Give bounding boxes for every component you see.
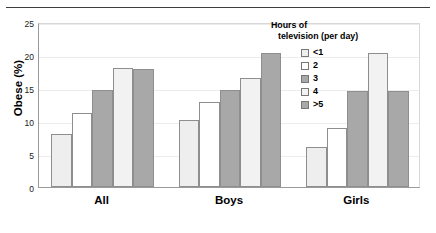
bar [113, 68, 134, 187]
legend-label: >5 [313, 100, 323, 109]
legend-label: <1 [313, 48, 323, 57]
legend-item: >5 [301, 98, 389, 111]
bar [133, 69, 154, 187]
x-axis-label: Boys [215, 194, 243, 206]
header-divider [6, 7, 430, 8]
bar [388, 91, 409, 187]
bar [220, 90, 241, 187]
legend-label: 3 [313, 74, 318, 83]
y-axis-tick-label: 5 [29, 151, 34, 161]
legend-title: Hours of television (per day) [271, 20, 389, 42]
legend-swatch-icon [301, 62, 309, 70]
y-axis-tick-label: 20 [25, 52, 34, 62]
bar [51, 134, 72, 187]
bar [92, 90, 113, 187]
x-axis-label: All [94, 194, 109, 206]
legend: Hours of television (per day) <1234>5 [271, 20, 389, 111]
legend-item: 4 [301, 85, 389, 98]
bar [199, 102, 220, 187]
legend-title-line2: television (per day) [271, 31, 389, 42]
bar [179, 120, 200, 187]
legend-swatch-icon [301, 75, 309, 83]
legend-items: <1234>5 [271, 46, 389, 111]
legend-swatch-icon [301, 101, 309, 109]
legend-swatch-icon [301, 49, 309, 57]
legend-item: 3 [301, 72, 389, 85]
y-axis-tick-label: 10 [25, 118, 34, 128]
y-axis-tick-label: 15 [25, 85, 34, 95]
y-axis-title: Obese (%) [12, 43, 24, 133]
bar [240, 78, 261, 187]
chart-figure: Obese (%) 0510152025 AllBoysGirls Hours … [0, 0, 436, 233]
bar [327, 128, 348, 187]
legend-title-line1: Hours of [271, 20, 389, 31]
legend-label: 4 [313, 87, 318, 96]
legend-item: <1 [301, 46, 389, 59]
bar [306, 147, 327, 187]
legend-swatch-icon [301, 88, 309, 96]
legend-item: 2 [301, 59, 389, 72]
legend-label: 2 [313, 61, 318, 70]
bar [72, 113, 93, 187]
y-axis-tick-label: 0 [29, 184, 34, 194]
x-axis-label: Girls [343, 194, 369, 206]
y-axis-tick-label: 25 [25, 19, 34, 29]
